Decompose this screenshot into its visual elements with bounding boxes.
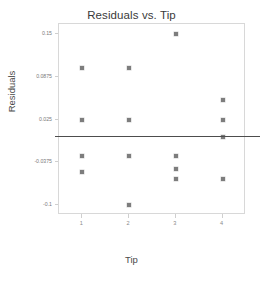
data-point (174, 32, 178, 36)
data-point (221, 118, 225, 122)
y-axis-label: Residuals (6, 37, 17, 147)
data-point (221, 98, 225, 102)
data-point (174, 154, 178, 158)
data-point (80, 154, 84, 158)
x-axis-tick-mark (81, 214, 82, 218)
plot-area (58, 23, 245, 214)
data-point (80, 66, 84, 70)
y-axis-tick-label: -0.1 (22, 201, 52, 207)
y-axis-tick-label: 0.0875 (22, 73, 52, 79)
data-point (221, 177, 225, 181)
data-point (80, 118, 84, 122)
data-point (127, 66, 131, 70)
data-point (127, 118, 131, 122)
y-axis-tick-label: -0.0375 (22, 158, 52, 164)
x-axis-tick-label: 3 (167, 220, 183, 226)
x-axis-tick-mark (128, 214, 129, 218)
data-point (127, 154, 131, 158)
chart-title: Residuals vs. Tip (0, 9, 263, 21)
x-axis-tick-mark (175, 214, 176, 218)
x-axis-tick-mark (222, 214, 223, 218)
zero-reference-line (55, 136, 260, 137)
data-point (80, 170, 84, 174)
data-point (174, 177, 178, 181)
data-point (127, 203, 131, 207)
x-axis-tick-label: 4 (214, 220, 230, 226)
residuals-scatter-chart: Residuals vs. Tip Residuals Tip 0.150.08… (0, 0, 263, 282)
y-axis-tick-label: 0.15 (22, 30, 52, 36)
data-point (174, 167, 178, 171)
x-axis-tick-label: 2 (120, 220, 136, 226)
y-axis-tick-label: 0.025 (22, 116, 52, 122)
x-axis-tick-label: 1 (73, 220, 89, 226)
x-axis-label: Tip (0, 254, 263, 265)
